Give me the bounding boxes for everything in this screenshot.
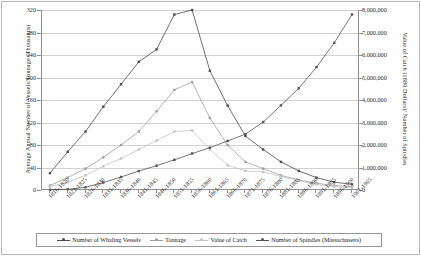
- left-axis-tick: [37, 168, 41, 169]
- left-axis-tick-label: 40: [2, 164, 36, 171]
- data-point-marker: [226, 144, 228, 146]
- right-axis-tick-label: 1,000,000: [362, 164, 408, 171]
- data-point-marker: [84, 174, 86, 176]
- data-point-marker: [138, 170, 140, 172]
- data-point-marker: [173, 130, 175, 132]
- data-point-marker: [315, 66, 317, 68]
- right-axis-tick: [359, 55, 363, 56]
- right-axis-tick: [359, 100, 363, 101]
- data-point-marker: [173, 13, 175, 15]
- data-point-marker: [138, 61, 140, 63]
- right-axis-tick-label: 0: [362, 186, 408, 193]
- data-point-marker: [120, 144, 122, 146]
- legend-label: Value of Catch: [211, 237, 247, 243]
- left-axis-tick: [37, 78, 41, 79]
- right-axis-tick: [359, 10, 363, 11]
- data-point-marker: [191, 9, 193, 11]
- right-axis-tick-label: 5,000,000: [362, 74, 408, 81]
- series-line: [50, 82, 352, 187]
- legend-item[interactable]: Number of Whaling Vessels: [57, 237, 141, 244]
- data-point-marker: [244, 170, 246, 172]
- left-axis-tick: [37, 10, 41, 11]
- legend-item[interactable]: Tonnage: [150, 237, 186, 244]
- data-point-marker: [84, 186, 86, 188]
- data-point-marker: [191, 81, 193, 83]
- left-axis-tick-label: 160: [2, 96, 36, 103]
- right-axis-tick: [359, 123, 363, 124]
- data-point-marker: [298, 87, 300, 89]
- data-point-marker: [155, 48, 157, 50]
- legend-label: Number of Whaling Vessels: [72, 237, 140, 243]
- data-point-marker: [262, 167, 264, 169]
- right-axis-tick: [359, 78, 363, 79]
- chart-screenshot: Average Annual Number of Vessels/Tonnage…: [0, 0, 421, 256]
- left-axis-tick-label: 320: [2, 6, 36, 13]
- data-point-marker: [138, 148, 140, 150]
- legend-label: Number of Spindles (Massachusetts): [271, 237, 361, 243]
- data-point-marker: [351, 13, 353, 15]
- right-axis-tick: [359, 168, 363, 169]
- right-axis-tick: [359, 33, 363, 34]
- right-axis-tick-label: 3,000,000: [362, 119, 408, 126]
- left-axis-tick-label: 200: [2, 74, 36, 81]
- left-axis-tick-label: 280: [2, 29, 36, 36]
- data-point-marker: [298, 170, 300, 172]
- data-point-marker: [191, 129, 193, 131]
- data-point-marker: [84, 130, 86, 132]
- data-point-marker: [333, 185, 335, 187]
- series-line: [50, 10, 352, 184]
- data-point-marker: [262, 148, 264, 150]
- left-axis-tick: [37, 33, 41, 34]
- legend-item[interactable]: Number of Spindles (Massachusetts): [256, 237, 361, 244]
- data-point-marker: [173, 159, 175, 161]
- data-point-marker: [155, 110, 157, 112]
- series-line: [50, 130, 352, 187]
- data-point-marker: [102, 106, 104, 108]
- data-point-marker: [49, 185, 51, 187]
- series-layer: [42, 10, 360, 190]
- diamond-marker: [57, 237, 70, 244]
- data-point-marker: [209, 117, 211, 119]
- data-point-marker: [244, 161, 246, 163]
- legend-label: Tonnage: [165, 237, 186, 243]
- legend-item[interactable]: Value of Catch: [195, 237, 247, 244]
- data-point-marker: [226, 104, 228, 106]
- right-axis-tick-label: 6,000,000: [362, 51, 408, 58]
- left-axis-tick: [37, 123, 41, 124]
- data-point-marker: [226, 164, 228, 166]
- right-axis-tick: [359, 145, 363, 146]
- left-axis-tick-label: 120: [2, 119, 36, 126]
- data-point-marker: [262, 121, 264, 123]
- data-point-marker: [120, 83, 122, 85]
- data-point-marker: [102, 165, 104, 167]
- left-axis-tick-label: 0: [2, 186, 36, 193]
- data-point-marker: [280, 104, 282, 106]
- plot-area: [41, 10, 359, 190]
- right-axis-tick-label: 4,000,000: [362, 96, 408, 103]
- square-marker: [256, 237, 269, 244]
- data-point-marker: [49, 172, 51, 174]
- left-axis-tick-label: 240: [2, 51, 36, 58]
- left-axis-tick: [37, 145, 41, 146]
- triangle-marker: [195, 237, 208, 244]
- right-axis-tick-label: 8,000,000: [362, 6, 408, 13]
- right-axis-tick-label: 2,000,000: [362, 141, 408, 148]
- left-axis-tick: [37, 55, 41, 56]
- data-point-marker: [173, 89, 175, 91]
- data-point-marker: [155, 165, 157, 167]
- data-point-marker: [262, 171, 264, 173]
- data-point-marker: [155, 139, 157, 141]
- data-point-marker: [191, 152, 193, 154]
- left-axis-tick: [37, 100, 41, 101]
- data-point-marker: [244, 133, 246, 135]
- left-axis-tick-label: 80: [2, 141, 36, 148]
- data-point-marker: [84, 167, 86, 169]
- data-point-marker: [102, 156, 104, 158]
- square-marker: [150, 237, 163, 244]
- data-point-marker: [209, 147, 211, 149]
- data-point-marker: [138, 130, 140, 132]
- chart-legend: Number of Whaling VesselsTonnageValue of…: [36, 233, 382, 247]
- data-point-marker: [351, 187, 353, 189]
- data-point-marker: [120, 157, 122, 159]
- data-point-marker: [280, 161, 282, 163]
